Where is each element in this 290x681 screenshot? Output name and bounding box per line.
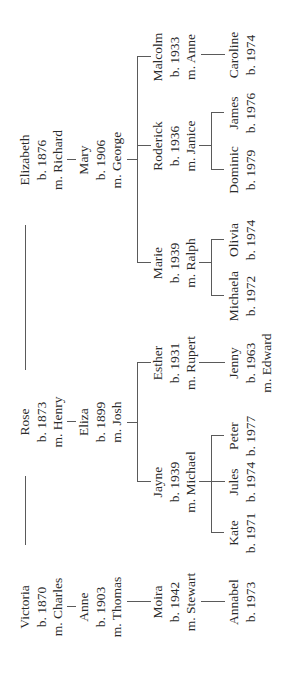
- person-born: b. 1974: [243, 10, 260, 100]
- branch-tick: [137, 481, 151, 482]
- person-spouse: m. Ralph: [183, 218, 200, 308]
- sibling-bracket: [211, 435, 212, 533]
- person-born: b. 1939: [167, 218, 184, 308]
- sibling-bracket: [137, 362, 138, 482]
- person-spouse: m. Thomas: [109, 562, 126, 652]
- person-name: Roderick: [150, 101, 167, 191]
- descent-tick: [67, 421, 76, 422]
- person-anne: Anne b. 1903 m. Thomas: [76, 562, 126, 652]
- person-name: Caroline: [226, 10, 243, 100]
- person-spouse: m. George: [109, 115, 126, 205]
- person-name: Marie: [150, 218, 167, 308]
- person-spouse: m. Josh: [109, 377, 126, 467]
- branch-tick: [211, 295, 224, 296]
- family-tree: Victoria b. 1870 m. Charles Anne b. 1903…: [0, 0, 290, 681]
- person-jayne: Jayne b. 1939 m. Michael: [150, 437, 200, 527]
- person-born: b. 1903: [93, 562, 110, 652]
- person-victoria: Victoria b. 1870 m. Charles: [17, 562, 67, 652]
- person-born: b. 1876: [34, 115, 51, 205]
- sibling-bracket: [211, 239, 212, 296]
- separator-line: [25, 476, 26, 545]
- person-malcolm: Malcolm b. 1933 m. Anne: [150, 12, 200, 102]
- person-spouse: m. Janice: [183, 101, 200, 191]
- person-caroline: Caroline b. 1974: [226, 10, 259, 100]
- descent-line: [199, 262, 211, 263]
- person-spouse: m. Stewart: [183, 557, 200, 647]
- person-moira: Moira b. 1942 m. Stewart: [150, 557, 200, 647]
- person-spouse: m. Charles: [50, 562, 67, 652]
- person-name: Eliza: [76, 377, 93, 467]
- descent-line: [127, 601, 151, 602]
- person-name: Rose: [17, 377, 34, 467]
- person-spouse: m. Henry: [50, 377, 67, 467]
- person-born: b. 1939: [167, 437, 184, 527]
- person-rose: Rose b. 1873 m. Henry: [17, 377, 67, 467]
- person-esther: Esther b. 1931 m. Rupert: [150, 318, 200, 408]
- person-spouse: m. Edward: [259, 318, 276, 408]
- person-mary: Mary b. 1906 m. George: [76, 115, 126, 205]
- descent-tick: [67, 159, 76, 160]
- descent-line: [201, 54, 225, 55]
- person-name: Anne: [76, 562, 93, 652]
- person-spouse: m. Anne: [183, 12, 200, 102]
- descent-tick: [67, 606, 76, 607]
- person-spouse: m. Rupert: [183, 318, 200, 408]
- descent-line: [199, 481, 225, 482]
- person-born: b. 1906: [93, 115, 110, 205]
- descent-line: [199, 145, 211, 146]
- branch-tick: [137, 262, 151, 263]
- person-name: Moira: [150, 557, 167, 647]
- person-marie: Marie b. 1939 m. Ralph: [150, 218, 200, 308]
- descent-line: [201, 601, 225, 602]
- person-born: b. 1873: [34, 377, 51, 467]
- separator-line: [25, 225, 26, 370]
- person-name: Elizabeth: [17, 115, 34, 205]
- branch-tick: [211, 532, 224, 533]
- person-name: Mary: [76, 115, 93, 205]
- person-name: Victoria: [17, 562, 34, 652]
- person-born: b. 1899: [93, 377, 110, 467]
- person-roderick: Roderick b. 1936 m. Janice: [150, 101, 200, 191]
- person-born: b. 1942: [167, 557, 184, 647]
- person-spouse: m. Michael: [183, 437, 200, 527]
- person-eliza: Eliza b. 1899 m. Josh: [76, 377, 126, 467]
- person-elizabeth: Elizabeth b. 1876 m. Richard: [17, 115, 67, 205]
- branch-tick: [211, 169, 224, 170]
- person-born: b. 1936: [167, 101, 184, 191]
- sibling-bracket: [137, 56, 138, 263]
- person-spouse: m. Richard: [50, 115, 67, 205]
- branch-tick: [137, 362, 151, 363]
- branch-tick: [211, 435, 224, 436]
- branch-tick: [137, 56, 151, 57]
- person-name: Jayne: [150, 437, 167, 527]
- person-name: Esther: [150, 318, 167, 408]
- sibling-bracket: [211, 112, 212, 170]
- descent-line: [127, 159, 137, 160]
- person-born: b. 1933: [167, 12, 184, 102]
- person-born: b. 1931: [167, 318, 184, 408]
- branch-tick: [137, 145, 151, 146]
- person-born: b. 1870: [34, 562, 51, 652]
- branch-tick: [211, 112, 224, 113]
- descent-line: [199, 362, 225, 363]
- branch-tick: [211, 239, 224, 240]
- descent-line: [127, 422, 137, 423]
- person-name: Malcolm: [150, 12, 167, 102]
